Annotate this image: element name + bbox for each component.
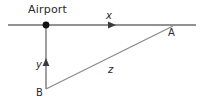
x-direction-arrowhead	[108, 22, 116, 29]
point-b-label: B	[36, 88, 43, 98]
segment-y-label: y	[36, 60, 42, 70]
airport-point-marker	[43, 22, 50, 29]
segment-z-label: z	[108, 65, 113, 75]
diagonal-z-line	[46, 26, 173, 89]
segment-x-label: x	[106, 11, 112, 21]
airport-label: Airport	[28, 4, 67, 15]
y-direction-arrowhead	[43, 58, 50, 66]
airport-distance-diagram: Airport x y z A B	[0, 0, 203, 105]
point-a-label: A	[168, 28, 175, 38]
